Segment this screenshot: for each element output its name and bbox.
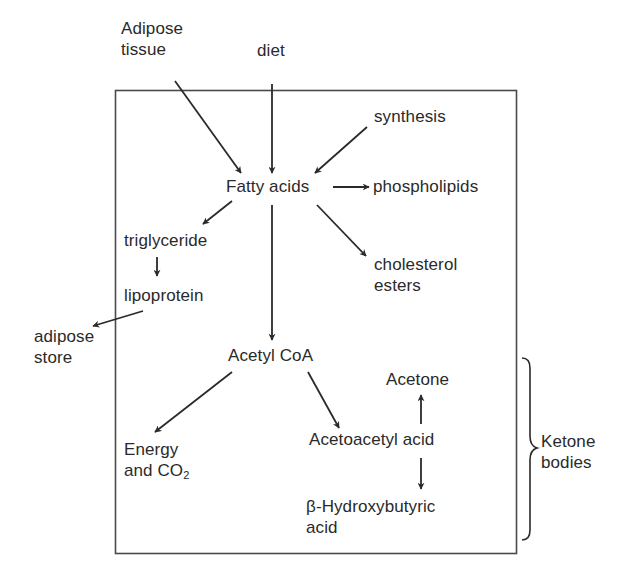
- node-cholesterol-esters-line-1: cholesterol: [374, 254, 457, 275]
- node-energy-line-2-text: and CO: [124, 461, 183, 480]
- node-energy-subscript: 2: [183, 469, 189, 481]
- node-hydroxybutyric-line-1: β-Hydroxybutyric: [306, 496, 435, 517]
- node-cholesterol-esters-line-2: esters: [374, 275, 457, 296]
- node-acetone: Acetone: [386, 369, 449, 390]
- arrow-acetyl-coa-to-energy: [155, 372, 232, 432]
- node-synthesis: synthesis: [374, 106, 446, 127]
- node-diet: diet: [257, 40, 285, 61]
- node-lipoprotein-label: lipoprotein: [124, 286, 204, 305]
- node-energy-line-1: Energy: [124, 439, 189, 460]
- node-acetoacetyl-acid-label: Acetoacetyl acid: [309, 430, 434, 449]
- liver-cell-boundary-box: [116, 91, 517, 554]
- metabolism-diagram: Adipose tissue diet synthesis Fatty acid…: [0, 0, 629, 582]
- arrow-adipose-tissue-to-fatty-acids: [175, 81, 241, 173]
- node-hydroxybutyric-line-2: acid: [306, 517, 435, 538]
- node-acetone-label: Acetone: [386, 370, 449, 389]
- node-phospholipids: phospholipids: [373, 176, 478, 197]
- node-fatty-acids: Fatty acids: [226, 176, 309, 197]
- node-adipose-tissue-line-2: tissue: [121, 39, 183, 60]
- node-adipose-store-line-2: store: [34, 347, 94, 368]
- node-fatty-acids-label: Fatty acids: [226, 177, 309, 196]
- node-acetyl-coa: Acetyl CoA: [228, 345, 313, 366]
- node-energy-line-2: and CO2: [124, 460, 189, 481]
- node-ketone-bodies: Ketone bodies: [541, 431, 595, 473]
- node-adipose-tissue-line-1: Adipose: [121, 18, 183, 39]
- arrow-fatty-acids-to-cholesterol-esters: [317, 205, 366, 256]
- node-triglyceride-label: triglyceride: [124, 231, 207, 250]
- arrow-fatty-acids-to-triglyceride: [203, 201, 232, 224]
- node-lipoprotein: lipoprotein: [124, 285, 204, 306]
- node-acetoacetyl-acid: Acetoacetyl acid: [309, 429, 434, 450]
- node-adipose-store-line-1: adipose: [34, 326, 94, 347]
- node-energy-co2: Energy and CO2: [124, 439, 189, 481]
- node-hydroxybutyric-acid: β-Hydroxybutyric acid: [306, 496, 435, 538]
- node-ketone-bodies-line-2: bodies: [541, 452, 595, 473]
- node-acetyl-coa-label: Acetyl CoA: [228, 346, 313, 365]
- node-adipose-store: adipose store: [34, 326, 94, 368]
- node-diet-label: diet: [257, 41, 285, 60]
- node-ketone-bodies-line-1: Ketone: [541, 431, 595, 452]
- node-adipose-tissue: Adipose tissue: [121, 18, 183, 60]
- diagram-connectors: [0, 0, 629, 582]
- ketone-bodies-brace: [522, 358, 537, 540]
- node-synthesis-label: synthesis: [374, 107, 446, 126]
- node-cholesterol-esters: cholesterol esters: [374, 254, 457, 296]
- arrow-synthesis-to-fatty-acids: [315, 127, 367, 173]
- node-triglyceride: triglyceride: [124, 230, 207, 251]
- arrow-acetyl-coa-to-acetoacetyl-acid: [308, 372, 339, 428]
- arrow-lipoprotein-to-adipose-store: [93, 311, 143, 326]
- node-phospholipids-label: phospholipids: [373, 177, 478, 196]
